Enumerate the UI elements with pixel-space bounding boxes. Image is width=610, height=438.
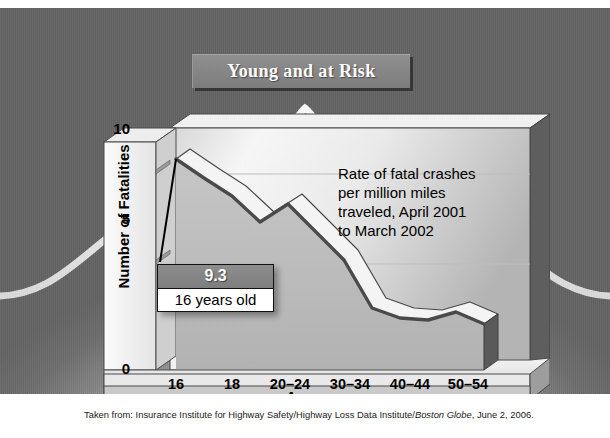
data-point-callout: 9.3 16 years old	[157, 264, 274, 312]
source-caption: Taken from: Insurance Institute for High…	[84, 409, 554, 421]
top-white-margin	[0, 0, 610, 8]
poster-title-plate: Young and at Risk	[192, 54, 410, 88]
chart-note-line-3: traveled, April 2001	[338, 202, 513, 221]
chart-note-line-1: Rate of fatal crashes	[338, 164, 513, 183]
y-tick-0: 0	[104, 360, 130, 377]
caption-prefix: Taken from: Insurance Institute for High…	[84, 409, 415, 420]
y-tick-5: 5	[104, 210, 130, 227]
poster-background: Young and at Risk	[0, 8, 610, 394]
page-title: Young and at Risk	[227, 61, 375, 82]
y-tick-10: 10	[104, 120, 130, 137]
chart-3d-graphic	[60, 112, 550, 394]
callout-label: 16 years old	[158, 289, 273, 311]
caption-italic-source: Boston Globe	[415, 409, 472, 420]
poster-image: Young and at Risk	[0, 0, 610, 438]
chart-note-line-2: per million miles	[338, 183, 513, 202]
chart-note-line-4: to March 2002	[338, 221, 513, 240]
chart-note: Rate of fatal crashes per million miles …	[338, 164, 513, 240]
callout-value: 9.3	[158, 265, 273, 289]
chart-figure: Number of Fatalities 10 5 0 16 18 20–24 …	[60, 112, 550, 394]
caption-suffix: , June 2, 2006.	[472, 409, 534, 420]
